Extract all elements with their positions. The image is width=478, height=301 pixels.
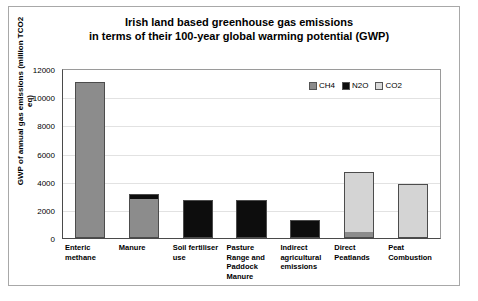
bar-segment-n2o [291, 221, 319, 237]
x-axis-tick-label: Indirect agricultural emissions [278, 243, 332, 272]
y-axis-tick-label: 8000 [37, 122, 55, 131]
bar-segment-ch4 [345, 232, 373, 237]
x-axis-tick-label: Direct Peatlands [332, 243, 386, 262]
y-axis-tick-label: 10000 [33, 94, 55, 103]
x-axis-tick-label: Manure [117, 243, 171, 253]
x-axis-tick-labels: Enteric methaneManureSoil fertiliser use… [63, 243, 440, 287]
bar-segment-ch4 [76, 83, 104, 237]
chart-title-line-1: Irish land based greenhouse gas emission… [49, 15, 429, 29]
y-axis-tick-label: 0 [51, 235, 55, 244]
stacked-bar[interactable] [236, 200, 266, 238]
chart-title-line-2: in terms of their 100-year global warmin… [49, 29, 429, 43]
legend-item[interactable]: CO2 [375, 81, 401, 90]
stacked-bar[interactable] [183, 200, 213, 238]
legend-label: CH4 [319, 81, 335, 90]
x-axis-tick-label: Soil fertiliser use [171, 243, 225, 262]
bar-group [63, 69, 117, 238]
legend-label: CO2 [385, 81, 401, 90]
y-axis-tick-label: 12000 [33, 66, 55, 75]
bar-segment-co2 [399, 185, 427, 237]
bar-group [117, 69, 171, 238]
stacked-bar[interactable] [75, 82, 105, 238]
bar-series-layer [63, 69, 440, 238]
bar-segment-ch4 [130, 199, 158, 237]
chart-title: Irish land based greenhouse gas emission… [49, 15, 429, 43]
x-axis-tick-label: Peat Combustion [386, 243, 440, 262]
bar-group [332, 69, 386, 238]
y-axis-tick-label: 6000 [37, 150, 55, 159]
legend-label: N2O [352, 81, 368, 90]
y-axis-tick-label: 2000 [37, 206, 55, 215]
bar-group [278, 69, 332, 238]
chart-legend: CH4N2OCO2 [309, 81, 402, 90]
y-axis-tick-label: 4000 [37, 178, 55, 187]
stacked-bar[interactable] [129, 194, 159, 238]
legend-item[interactable]: N2O [342, 81, 368, 90]
stacked-bar[interactable] [290, 220, 320, 238]
stacked-bar[interactable] [398, 184, 428, 238]
y-axis-tick-labels: 020004000600080001000012000 [9, 69, 59, 241]
bar-group [225, 69, 279, 238]
stacked-bar[interactable] [344, 172, 374, 238]
bar-segment-n2o [237, 201, 265, 237]
x-axis-tick-label: Pasture Range and Paddock Manure [225, 243, 279, 281]
bar-segment-co2 [345, 173, 373, 232]
legend-swatch-co2 [375, 82, 383, 90]
legend-item[interactable]: CH4 [309, 81, 335, 90]
chart-figure: Irish land based greenhouse gas emission… [8, 6, 460, 286]
x-axis-tick-label: Enteric methane [63, 243, 117, 262]
bar-segment-n2o [184, 201, 212, 237]
bar-group [386, 69, 440, 238]
legend-swatch-ch4 [309, 82, 317, 90]
legend-swatch-n2o [342, 82, 350, 90]
bar-group [171, 69, 225, 238]
